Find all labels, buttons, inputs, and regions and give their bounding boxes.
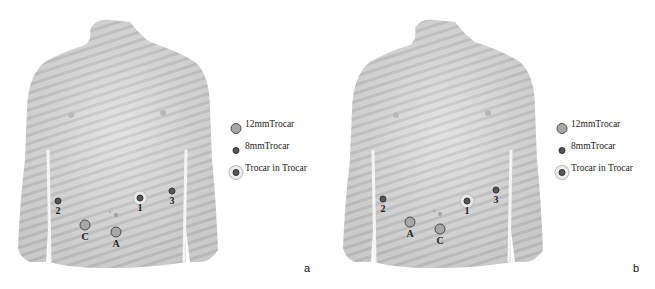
port-marker-a-icon: [405, 217, 416, 228]
circle-trocar-in-trocar-icon: [233, 169, 240, 176]
circle-8mm-icon: [559, 147, 566, 154]
port-marker-c-icon: [80, 220, 91, 231]
panel-letter: b: [633, 262, 639, 274]
legend-label: Trocar in Trocar: [245, 163, 307, 173]
circle-8mm-icon: [233, 147, 240, 154]
legend-label: 12mmTrocar: [571, 119, 620, 129]
panel-letter: a: [304, 262, 310, 274]
legend-item-trocar-in-trocar: Trocar in Trocar: [554, 162, 654, 184]
panel-b: 213AC 12mmTrocar 8mmTrocar Trocar in Tro…: [327, 0, 654, 289]
port-label: A: [406, 228, 413, 239]
port-label: 3: [170, 195, 175, 206]
legend-item-trocar-in-trocar: Trocar in Trocar: [228, 162, 328, 184]
legend-label: 12mmTrocar: [245, 119, 294, 129]
circle-12mm-icon: [231, 123, 242, 134]
panel-a: 213CA 12mmTrocar 8mmTrocar Trocar in Tro…: [0, 0, 327, 289]
legend-item-12mm: 12mmTrocar: [228, 118, 328, 140]
circle-trocar-in-trocar-icon: [559, 169, 566, 176]
legend-label: 8mmTrocar: [571, 141, 616, 151]
port-marker-3-icon: [169, 188, 176, 195]
port-marker-a-icon: [111, 227, 122, 238]
port-label: C: [436, 235, 443, 246]
port-marker-2-icon: [380, 196, 387, 203]
port-label: C: [81, 231, 88, 242]
port-marker-1-icon: [464, 198, 471, 205]
legend-item-8mm: 8mmTrocar: [228, 140, 328, 162]
port-label: A: [112, 238, 119, 249]
legend-item-8mm: 8mmTrocar: [554, 140, 654, 162]
legend-item-12mm: 12mmTrocar: [554, 118, 654, 140]
port-marker-c-icon: [435, 224, 446, 235]
port-label: 2: [381, 203, 386, 214]
legend: 12mmTrocar 8mmTrocar Trocar in Trocar: [554, 118, 654, 184]
port-label: 1: [465, 205, 470, 216]
port-marker-3-icon: [493, 187, 500, 194]
port-marker-2-icon: [55, 198, 62, 205]
legend-label: 8mmTrocar: [245, 141, 290, 151]
legend-label: Trocar in Trocar: [571, 163, 633, 173]
port-marker-1-icon: [137, 195, 144, 202]
circle-12mm-icon: [557, 123, 568, 134]
legend: 12mmTrocar 8mmTrocar Trocar in Trocar: [228, 118, 328, 184]
port-label: 2: [56, 205, 61, 216]
port-label: 3: [494, 194, 499, 205]
port-label: 1: [138, 202, 143, 213]
